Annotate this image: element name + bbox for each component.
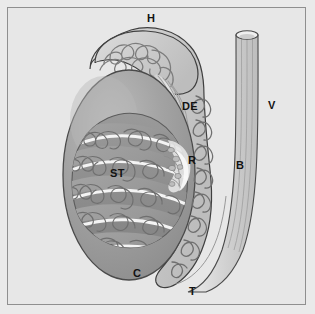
label-capsule: C	[133, 268, 141, 279]
figure-root: H DE V R B ST C T	[0, 0, 315, 314]
label-rete-testis: R	[188, 155, 196, 166]
label-seminiferous-tubules: ST	[110, 168, 125, 179]
label-tail-of-epididymis: T	[189, 286, 196, 297]
anatomy-diagram	[0, 0, 315, 314]
label-head-of-epididymis: H	[147, 13, 155, 24]
label-ductuli-efferentes: DE	[182, 101, 198, 112]
label-body-of-epididymis: B	[236, 160, 244, 171]
label-vas-deferens: V	[268, 100, 276, 111]
